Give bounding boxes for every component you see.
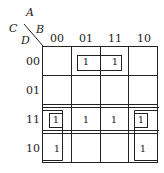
col-var-b: B xyxy=(36,24,44,35)
cell-r2-c0: 1 xyxy=(51,115,61,125)
row-header-01: 01 xyxy=(26,85,40,96)
cell-r0-c1: 1 xyxy=(81,57,91,67)
cell-r2-c2: 1 xyxy=(109,115,119,125)
col-header-11: 11 xyxy=(108,33,122,44)
cell-r3-c3: 1 xyxy=(138,144,148,154)
row-header-00: 00 xyxy=(26,56,40,67)
col-var-a: A xyxy=(26,7,34,18)
cell-r2-c1: 1 xyxy=(81,115,91,125)
row-var-c: C xyxy=(9,23,17,34)
row-var-d: D xyxy=(21,35,30,46)
col-header-01: 01 xyxy=(79,33,93,44)
cell-r2-c3: 1 xyxy=(136,115,146,125)
col-header-00: 00 xyxy=(50,33,64,44)
col-header-10: 10 xyxy=(137,33,151,44)
cell-r0-c2: 1 xyxy=(110,57,120,67)
row-header-10: 10 xyxy=(26,143,40,154)
row-header-11: 11 xyxy=(26,114,40,125)
cell-r3-c0: 1 xyxy=(52,144,62,154)
